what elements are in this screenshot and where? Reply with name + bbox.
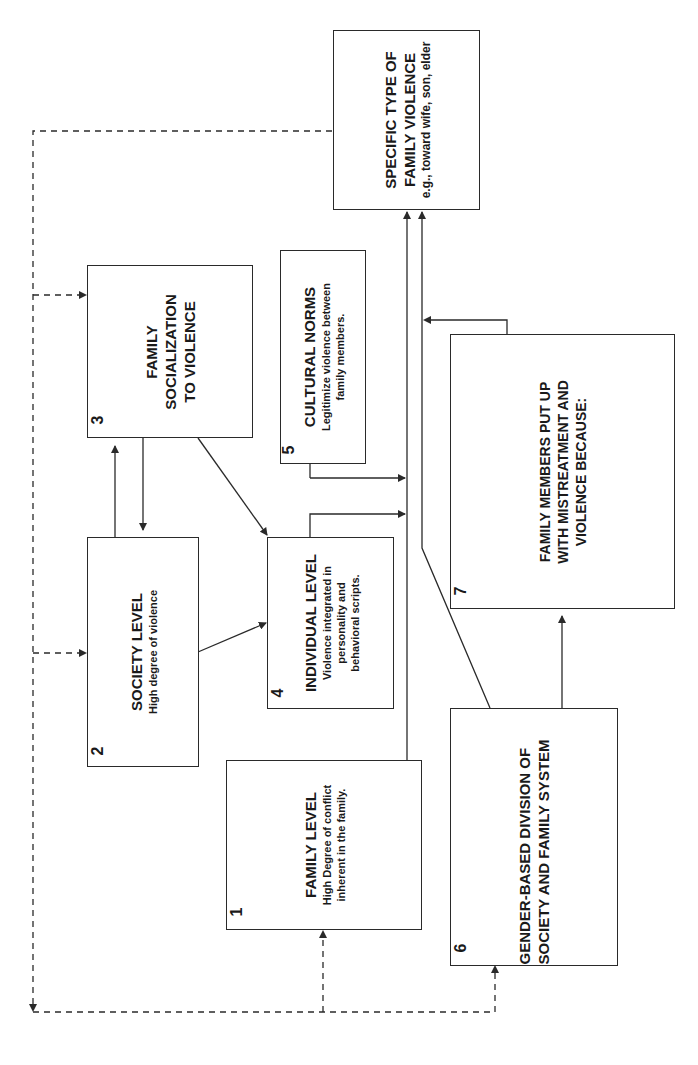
box-6-title: GENDER-BASED DIVISION OF SOCIETY AND FAM… bbox=[515, 739, 553, 964]
box-2-society-level: SOCIETY LEVEL High degree of violence 2 bbox=[87, 537, 199, 767]
box-3-title: FAMILY SOCIALIZATION TO VIOLENCE bbox=[142, 294, 199, 410]
arrow-3-to-4 bbox=[198, 438, 267, 535]
box-3-family-socialization: FAMILY SOCIALIZATION TO VIOLENCE 3 bbox=[87, 265, 253, 438]
box-5-title: CULTURAL NORMS bbox=[300, 287, 319, 427]
box-7-number: 7 bbox=[452, 587, 470, 596]
box-7-title: FAMILY MEMBERS PUT UP WITH MISTREATMENT … bbox=[536, 380, 590, 564]
box-5-number: 5 bbox=[280, 446, 298, 455]
arrow-7-to-outcome bbox=[425, 320, 507, 334]
box-6-gender-based-division: GENDER-BASED DIVISION OF SOCIETY AND FAM… bbox=[450, 708, 618, 966]
box-5-cultural-norms: CULTURAL NORMS Legitimize violence betwe… bbox=[280, 250, 366, 464]
box-2-subtitle: High degree of violence bbox=[146, 590, 160, 714]
box-1-number: 1 bbox=[228, 908, 246, 917]
box-4-title: INDIVIDUAL LEVEL bbox=[300, 554, 319, 692]
box-4-subtitle: Violence integrated in personality and b… bbox=[319, 566, 361, 680]
feedback-bottom bbox=[33, 970, 495, 1012]
box-2-title: SOCIETY LEVEL bbox=[127, 593, 146, 711]
box-4-number: 4 bbox=[269, 689, 287, 698]
box-1-subtitle: High Degree of conflict inherent in the … bbox=[320, 785, 348, 905]
outcome-title: SPECIFIC TYPE OF FAMILY VIOLENCE bbox=[381, 51, 419, 189]
box-specific-type-of-family-violence: SPECIFIC TYPE OF FAMILY VIOLENCE e.g., t… bbox=[333, 30, 480, 210]
box-3-number: 3 bbox=[89, 416, 107, 425]
box-7-family-members-put-up: FAMILY MEMBERS PUT UP WITH MISTREATMENT … bbox=[450, 334, 675, 609]
box-4-individual-level: INDIVIDUAL LEVEL Violence integrated in … bbox=[267, 537, 394, 709]
box-2-number: 2 bbox=[89, 747, 107, 756]
box-5-subtitle: Legitimize violence between family membe… bbox=[319, 283, 347, 431]
box-6-number: 6 bbox=[452, 944, 470, 953]
arrow-2-to-4 bbox=[198, 623, 266, 652]
arrow-4-to-trunk bbox=[310, 514, 405, 537]
box-1-family-level: FAMILY LEVEL High Degree of conflict inh… bbox=[226, 760, 422, 930]
outcome-subtitle: e.g., toward wife, son, elder bbox=[419, 42, 433, 199]
box-1-title: FAMILY LEVEL bbox=[301, 792, 320, 898]
diagram-canvas: SPECIFIC TYPE OF FAMILY VIOLENCE e.g., t… bbox=[0, 0, 698, 1065]
